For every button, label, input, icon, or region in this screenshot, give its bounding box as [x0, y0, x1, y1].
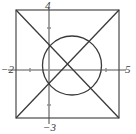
plot-canvas [0, 0, 136, 134]
math-figure: 4 −3 −2 5 [0, 0, 136, 134]
x-axis-max-label: 5 [125, 64, 131, 75]
x-axis-min-label: −2 [1, 64, 14, 75]
inscribed-circle [43, 36, 102, 95]
y-axis-min-label: −3 [43, 122, 56, 133]
y-axis-max-label: 4 [45, 0, 51, 11]
